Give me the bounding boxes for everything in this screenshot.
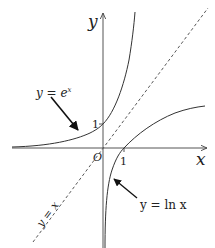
identity-label: y = x <box>33 198 62 230</box>
exponential-label-text: y = e <box>35 86 68 100</box>
x-tick-label: 1 <box>120 155 127 168</box>
exponential-pointer-arrow <box>51 97 78 130</box>
exponential-curve <box>12 12 135 147</box>
exponential-label: y = ex <box>35 86 72 100</box>
origin-label: O <box>93 151 102 164</box>
x-axis-label: x <box>196 149 206 169</box>
exponential-label-exponent: x <box>68 86 72 94</box>
y-axis-label: y <box>87 11 98 31</box>
logarithm-pointer-arrow <box>114 179 137 198</box>
y-tick-label: 1 <box>92 118 99 131</box>
logarithm-label: y = ln x <box>139 198 187 212</box>
function-graph: y x O 1 1 y = ex y = ln x y = x <box>0 0 215 248</box>
logarithm-curve <box>105 106 205 248</box>
